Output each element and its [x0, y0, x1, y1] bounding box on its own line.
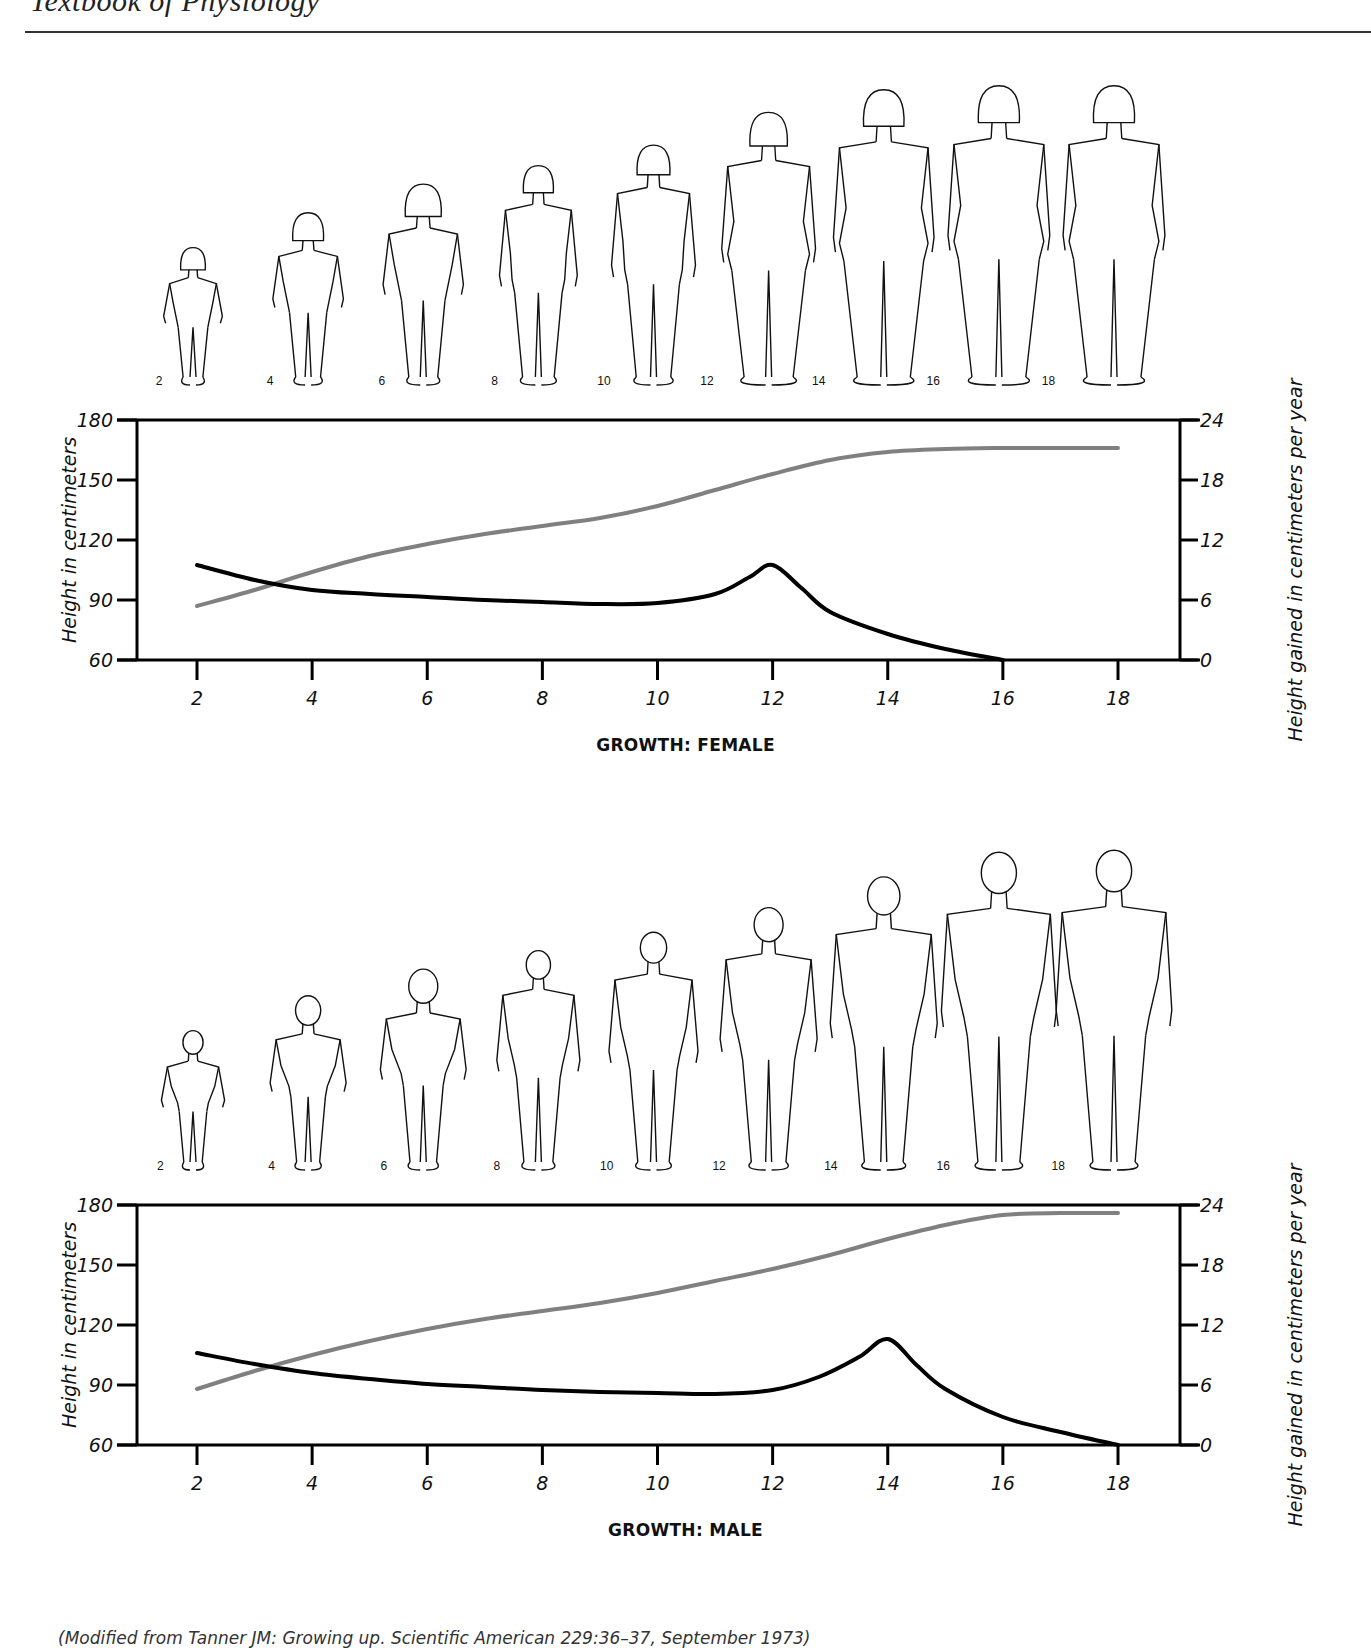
left-y-tick-label: 120	[77, 529, 113, 551]
left-y-axis-title: Height in centimeters	[58, 437, 80, 643]
female-growth-panel: 24681012141618 6090120150180061218242468…	[0, 0, 1371, 780]
x-tick-label: 10	[645, 687, 669, 709]
left-y-tick-label: 90	[89, 1374, 113, 1396]
left-y-tick-label: 60	[89, 649, 113, 671]
right-y-tick-label: 0	[1200, 1434, 1212, 1456]
x-tick-label: 16	[991, 1472, 1015, 1494]
left-y-axis-title: Height in centimeters	[58, 1222, 80, 1428]
x-tick-label: 14	[876, 1472, 900, 1494]
male-chart-title: GROWTH: MALE	[0, 1520, 1371, 1540]
left-y-tick-label: 150	[77, 469, 113, 491]
female-growth-chart: 60901201501800612182424681012141618Heigh…	[0, 0, 1371, 780]
height-curve	[197, 448, 1118, 606]
height-curve	[197, 1213, 1118, 1389]
x-tick-label: 10	[645, 1472, 669, 1494]
source-citation: (Modified from Tanner JM: Growing up. Sc…	[58, 1628, 810, 1648]
right-y-tick-label: 24	[1200, 409, 1224, 431]
x-tick-label: 16	[991, 687, 1015, 709]
x-tick-label: 6	[421, 1472, 433, 1494]
right-y-tick-label: 6	[1200, 1374, 1212, 1396]
velocity-curve	[197, 565, 1003, 660]
right-y-tick-label: 6	[1200, 589, 1212, 611]
right-y-tick-label: 12	[1200, 1314, 1224, 1336]
x-tick-label: 18	[1106, 687, 1130, 709]
right-y-tick-label: 0	[1200, 649, 1212, 671]
right-y-axis-title: Height gained in centimeters per year	[1284, 377, 1306, 741]
x-tick-label: 14	[876, 687, 900, 709]
male-growth-chart: 60901201501800612182424681012141618Heigh…	[0, 785, 1371, 1565]
x-tick-label: 4	[306, 687, 318, 709]
x-tick-label: 18	[1106, 1472, 1130, 1494]
x-tick-label: 2	[191, 687, 203, 709]
right-y-tick-label: 18	[1200, 1254, 1224, 1276]
x-tick-label: 8	[536, 687, 548, 709]
x-tick-label: 6	[421, 687, 433, 709]
female-chart-title: GROWTH: FEMALE	[0, 735, 1371, 755]
left-y-tick-label: 60	[89, 1434, 113, 1456]
right-y-axis-title: Height gained in centimeters per year	[1284, 1162, 1306, 1526]
male-growth-panel: 24681012141618 6090120150180061218242468…	[0, 785, 1371, 1565]
x-tick-label: 12	[761, 1472, 785, 1494]
right-y-tick-label: 12	[1200, 529, 1224, 551]
x-tick-label: 12	[761, 687, 785, 709]
left-y-tick-label: 180	[77, 409, 113, 431]
x-tick-label: 4	[306, 1472, 318, 1494]
right-y-tick-label: 18	[1200, 469, 1224, 491]
left-y-tick-label: 90	[89, 589, 113, 611]
x-tick-label: 2	[191, 1472, 203, 1494]
x-tick-label: 8	[536, 1472, 548, 1494]
left-y-tick-label: 180	[77, 1194, 113, 1216]
right-y-tick-label: 24	[1200, 1194, 1224, 1216]
left-y-tick-label: 150	[77, 1254, 113, 1276]
velocity-curve	[197, 1339, 1118, 1445]
left-y-tick-label: 120	[77, 1314, 113, 1336]
